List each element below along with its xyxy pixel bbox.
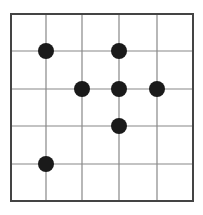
dot <box>111 43 127 59</box>
dot <box>111 81 127 97</box>
dot <box>149 81 165 97</box>
dot <box>38 43 54 59</box>
dot <box>111 118 127 134</box>
dot <box>38 156 54 172</box>
dot-grid-diagram <box>0 0 203 215</box>
grid-border <box>11 14 193 201</box>
dot <box>74 81 90 97</box>
